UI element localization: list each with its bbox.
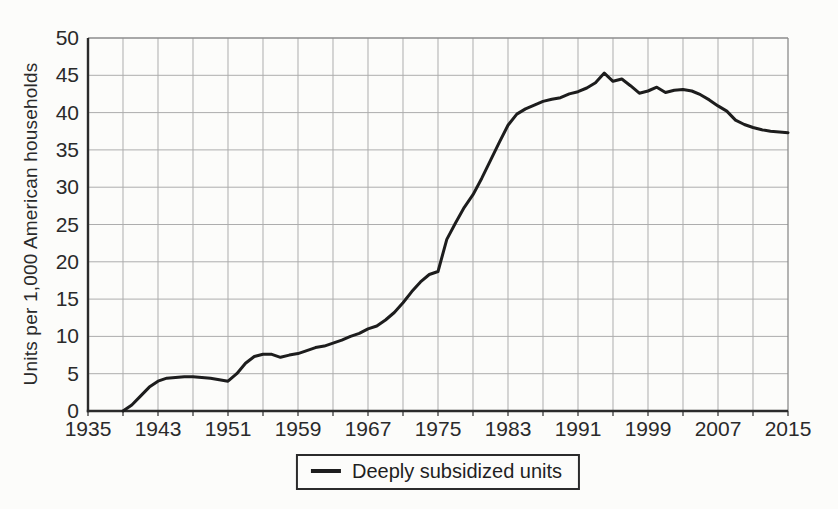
y-tick-label: 15 [56,287,79,310]
x-tick-label: 2015 [765,417,812,440]
x-tick-label: 1975 [415,417,462,440]
x-tick-label: 1983 [485,417,532,440]
legend-box: Deeply subsidized units [296,454,580,490]
data-line-series [123,73,788,411]
y-tick-label: 10 [56,324,79,347]
y-tick-label: 35 [56,138,79,161]
x-tick-label: 1943 [135,417,182,440]
x-tick-label: 2007 [695,417,742,440]
y-tick-label: 50 [56,26,79,49]
chart-figure: 1935194319511959196719751983199119992007… [0,0,838,509]
axis-ticks [88,411,788,416]
y-tick-label: 25 [56,213,79,236]
y-tick-label: 0 [67,399,79,422]
chart-canvas: 1935194319511959196719751983199119992007… [0,0,838,450]
gridlines [88,38,788,411]
x-tick-label: 1959 [275,417,322,440]
x-tick-label: 1999 [625,417,672,440]
legend-line-swatch-icon [311,469,341,473]
y-tick-label: 30 [56,175,79,198]
x-tick-label: 1967 [345,417,392,440]
x-tick-label: 1991 [555,417,602,440]
y-tick-label: 20 [56,250,79,273]
legend-label: Deeply subsidized units [352,460,562,483]
y-tick-label: 45 [56,63,79,86]
y-tick-label: 40 [56,101,79,124]
y-tick-label: 5 [67,362,79,385]
x-tick-label: 1951 [205,417,252,440]
y-axis-title: Units per 1,000 American households [20,14,42,434]
data-line [123,73,788,411]
